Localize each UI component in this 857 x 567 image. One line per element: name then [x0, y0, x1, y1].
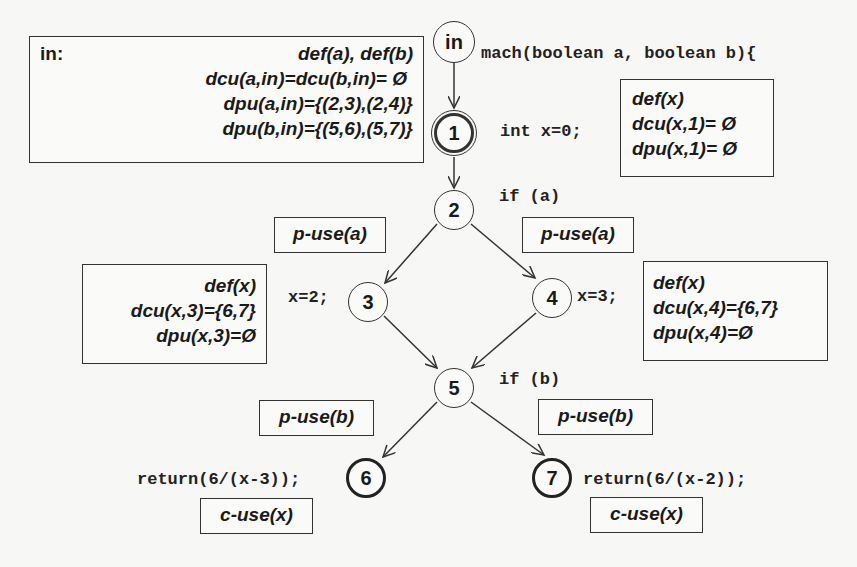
- edge-label-2-4: p-use(a): [522, 217, 634, 253]
- node-4: 4: [532, 278, 572, 318]
- edge-3-5: [384, 316, 437, 368]
- code-4: x=3;: [577, 287, 618, 306]
- node-5-label: 5: [448, 377, 459, 400]
- code-in: mach(boolean a, boolean b){: [481, 44, 756, 63]
- code-2: if (a): [499, 187, 560, 206]
- c-use-label-6: c-use(x): [200, 498, 313, 534]
- node1-box-line: dpu(x,1)= Ø: [632, 136, 762, 161]
- node-in-label: in: [445, 31, 463, 54]
- code-6: return(6/(x-3));: [137, 470, 300, 489]
- node1-box-line: dcu(x,1)= Ø: [632, 111, 762, 136]
- node4-definitions-box: def(x) dcu(x,4)={6,7} dpu(x,4)=Ø: [643, 261, 828, 361]
- node4-box-line: def(x): [653, 270, 818, 295]
- node3-box-line: dpu(x,3)=Ø: [93, 323, 256, 348]
- node-3: 3: [348, 282, 388, 322]
- c-use-label-7: c-use(x): [590, 497, 703, 533]
- node4-box-line: dcu(x,4)={6,7}: [653, 295, 818, 320]
- node-5: 5: [434, 368, 474, 408]
- code-1: int x=0;: [500, 122, 582, 141]
- node-4-label: 4: [546, 287, 557, 310]
- node-2-label: 2: [448, 199, 459, 222]
- edge-4-5: [472, 313, 536, 368]
- in-box-line: def(a), def(b): [40, 41, 413, 66]
- edge-label-5-7: p-use(b): [538, 399, 653, 435]
- node4-box-line: dpu(x,4)=Ø: [653, 320, 818, 345]
- node1-definitions-box: def(x) dcu(x,1)= Ø dpu(x,1)= Ø: [620, 79, 774, 177]
- edge-label-2-3: p-use(a): [274, 217, 386, 253]
- node-1: 1: [434, 113, 474, 153]
- node-3-label: 3: [362, 291, 373, 314]
- in-box-line: dcu(a,in)=dcu(b,in)= Ø: [40, 66, 413, 91]
- in-box-line: dpu(a,in)={(2,3),(2,4)}: [40, 91, 413, 116]
- code-7: return(6/(x-2));: [583, 470, 746, 489]
- node-6-label: 6: [360, 467, 371, 490]
- node-6: 6: [346, 458, 386, 498]
- node3-definitions-box: def(x) dcu(x,3)={6,7} dpu(x,3)=Ø: [82, 264, 267, 364]
- in-box-line: dpu(b,in)={(5,6),(5,7)}: [40, 116, 413, 141]
- edge-5-6: [383, 402, 437, 457]
- in-box-title: in:: [40, 41, 63, 66]
- node-1-label: 1: [448, 122, 459, 145]
- edge-5-7: [471, 402, 544, 455]
- node3-box-line: def(x): [93, 273, 256, 298]
- node1-box-line: def(x): [632, 86, 762, 111]
- code-5: if (b): [499, 370, 560, 389]
- code-3: x=2;: [288, 288, 329, 307]
- node-2: 2: [434, 190, 474, 230]
- edge-label-5-6: p-use(b): [259, 400, 374, 436]
- node-in: in: [433, 21, 475, 63]
- node-7: 7: [532, 458, 572, 498]
- in-definitions-box: in: def(a), def(b) dcu(a,in)=dcu(b,in)= …: [29, 36, 424, 163]
- edge-2-3: [385, 224, 437, 283]
- node3-box-line: dcu(x,3)={6,7}: [93, 298, 256, 323]
- node-7-label: 7: [546, 467, 557, 490]
